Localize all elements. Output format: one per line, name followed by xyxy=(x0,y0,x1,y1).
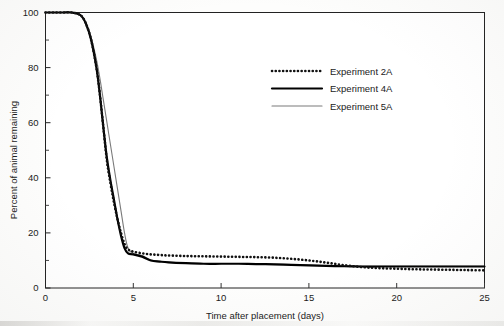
y-tick-label: 100 xyxy=(23,7,39,18)
figure-container: 020406080100 0510152025 Time after place… xyxy=(0,0,504,326)
legend-label-1: Experiment 2A xyxy=(330,66,393,77)
x-tick-label: 20 xyxy=(391,292,402,303)
y-tick-label: 40 xyxy=(28,172,39,183)
legend-label-2: Experiment 4A xyxy=(330,83,393,94)
y-tick-label: 0 xyxy=(33,282,38,293)
y-tick-label: 80 xyxy=(28,62,39,73)
x-tick-label: 15 xyxy=(304,292,315,303)
x-axis-title: Time after placement (days) xyxy=(206,310,324,321)
y-axis-title: Percent of animal remaining xyxy=(8,101,19,219)
x-tick-label: 10 xyxy=(216,292,227,303)
y-tick-label: 20 xyxy=(28,227,39,238)
line-chart: 020406080100 0510152025 Time after place… xyxy=(0,0,504,326)
legend-label-3: Experiment 5A xyxy=(330,101,393,112)
x-tick-label: 25 xyxy=(479,292,490,303)
y-tick-label: 60 xyxy=(28,117,39,128)
x-tick-label: 0 xyxy=(43,292,48,303)
x-tick-label: 5 xyxy=(131,292,136,303)
